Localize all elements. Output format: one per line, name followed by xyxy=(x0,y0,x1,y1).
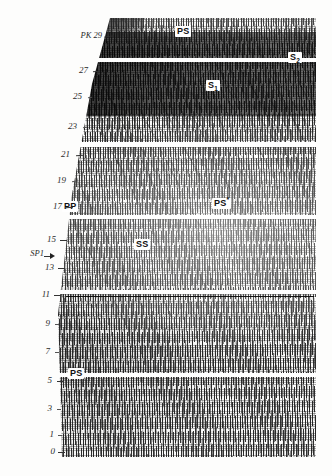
axis-tick-label-pk29: PK 29 xyxy=(58,30,102,40)
axis-tick-label-25: 25 xyxy=(66,91,82,101)
seismic-panel: PS S2 S1 PP PS* SS PS PK 29 27 25 23 21 xyxy=(0,0,332,476)
axis-tick-label-5: 5 xyxy=(40,375,52,385)
picked-horizon-line xyxy=(66,296,314,297)
phase-label-ps-bottom: PS xyxy=(68,368,84,379)
phase-label-ps-top: PS xyxy=(175,26,191,37)
steep-near-trace-bundle-lower xyxy=(14,284,34,354)
axis-tick-mark-9 xyxy=(55,324,59,325)
axis-tick-mark-1 xyxy=(58,435,62,436)
axis-tick-label-0: 0 xyxy=(43,446,55,456)
separator-band-1 xyxy=(0,58,318,62)
axis-tick-label-11: 11 xyxy=(34,289,50,299)
axis-tick-mark-5 xyxy=(57,381,64,382)
phase-label-ps-star: PS* xyxy=(212,198,231,209)
axis-tick-mark-3 xyxy=(57,409,61,410)
axis-tick-label-15: 15 xyxy=(40,234,56,244)
axis-tick-label-3: 3 xyxy=(40,403,52,413)
axis-tick-mark-15 xyxy=(60,240,67,241)
axis-tick-label-17: 17 xyxy=(46,201,62,211)
axis-tick-label-1: 1 xyxy=(42,429,54,439)
phase-label-s2: S2 xyxy=(288,52,302,63)
seismic-figure-root: PS S2 S1 PP PS* SS PS PK 29 27 25 23 21 xyxy=(0,0,332,476)
axis-tick-mark-0 xyxy=(58,452,65,453)
separator-band-3 xyxy=(0,215,318,219)
axis-tick-label-21: 21 xyxy=(54,149,70,159)
axis-tick-label-27: 27 xyxy=(72,65,88,75)
shotpoint-arrow-icon xyxy=(50,253,55,259)
axis-tick-mark-11 xyxy=(54,295,61,296)
axis-tick-label-13: 13 xyxy=(38,262,54,272)
axis-tick-label-19: 19 xyxy=(50,175,66,185)
dark-amplitude-band xyxy=(0,32,318,116)
separator-band-2 xyxy=(0,142,318,147)
shotpoint-label-sp1: SP1 xyxy=(14,248,44,258)
axis-tick-mark-7 xyxy=(55,352,59,353)
phase-label-s1: S1 xyxy=(206,80,220,91)
axis-tick-label-7: 7 xyxy=(38,346,50,356)
axis-tick-label-9: 9 xyxy=(38,318,50,328)
phase-label-ss: SS xyxy=(134,239,150,250)
axis-tick-label-23: 23 xyxy=(61,121,77,131)
axis-tick-mark-13 xyxy=(58,268,65,269)
